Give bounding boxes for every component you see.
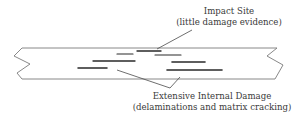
- internal-damage-title: Extensive Internal Damage: [126, 91, 298, 102]
- internal-damage-note: (delaminations and matrix cracking): [126, 102, 298, 113]
- impact-site-note: (little damage evidence): [174, 17, 284, 28]
- internal-damage-label: Extensive Internal Damage (delaminations…: [126, 91, 298, 113]
- impact-site-title: Impact Site: [174, 6, 284, 17]
- impact-leader-line: [157, 30, 192, 49]
- laminate-beam-outline: [14, 48, 283, 79]
- impact-site-label: Impact Site (little damage evidence): [174, 6, 284, 28]
